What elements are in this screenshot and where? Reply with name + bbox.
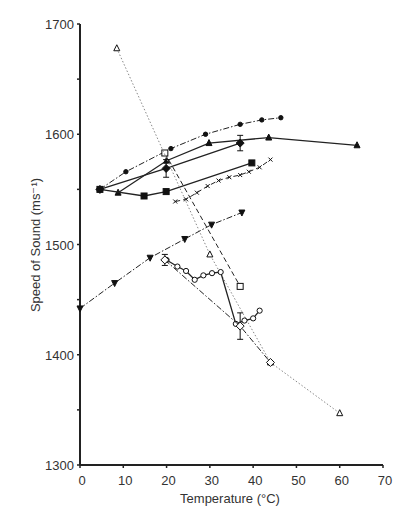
data-point (249, 160, 255, 166)
x-axis-title: Temperature (°C) (180, 491, 280, 506)
x-tick-label: 50 (291, 473, 305, 488)
data-point (237, 283, 243, 289)
y-tick-label: 1300 (45, 458, 74, 473)
data-point (337, 410, 343, 416)
data-point (141, 193, 147, 199)
data-point (207, 251, 213, 257)
data-point (97, 186, 103, 192)
data-point (218, 269, 223, 274)
axes: 01020304050607013001400150016001700 (45, 17, 392, 488)
speed-of-sound-chart: 01020304050607013001400150016001700 Temp… (0, 0, 406, 518)
data-point (192, 277, 197, 282)
series-line (100, 118, 281, 190)
series-line (165, 260, 271, 363)
data-point (201, 273, 206, 278)
series-line (175, 160, 270, 202)
y-tick-label: 1500 (45, 238, 74, 253)
data-point (203, 132, 207, 136)
data-point (238, 122, 242, 126)
data-point (162, 164, 170, 172)
x-tick-label: 40 (248, 473, 262, 488)
data-point (209, 222, 215, 228)
data-point (147, 255, 153, 261)
y-tick-label: 1600 (45, 127, 74, 142)
y-tick-label: 1400 (45, 348, 74, 363)
data-point (260, 118, 264, 122)
series-open-triangle-up (114, 45, 343, 416)
data-point (169, 146, 173, 150)
data-point (209, 271, 214, 276)
series-filled-diamond (96, 135, 244, 193)
data-point (182, 236, 188, 242)
data-point (266, 134, 272, 140)
series-filled-circle (98, 116, 283, 192)
x-tick-label: 30 (205, 473, 219, 488)
series-open-circle (164, 257, 262, 326)
y-axis-title: Speed of Sound (ms⁻¹) (28, 178, 43, 312)
series-line (118, 138, 357, 193)
data-point (77, 306, 83, 312)
data-point (257, 308, 262, 313)
data-point (114, 45, 120, 51)
data-point (175, 264, 180, 269)
data-point (251, 316, 256, 321)
x-tick-label: 0 (78, 473, 85, 488)
x-tick-label: 10 (118, 473, 132, 488)
x-tick-label: 20 (161, 473, 175, 488)
x-tick-label: 70 (378, 473, 392, 488)
series-filled-triangle-down (77, 210, 245, 312)
series-layer (77, 45, 360, 416)
data-point (183, 268, 188, 273)
series-line (117, 48, 340, 413)
data-point (124, 170, 128, 174)
x-tick-label: 60 (334, 473, 348, 488)
series-line (167, 260, 260, 324)
data-point (163, 189, 169, 195)
data-point (242, 318, 247, 323)
data-point (112, 281, 118, 287)
series-cross (173, 158, 272, 204)
data-point (279, 116, 283, 120)
y-tick-label: 1700 (45, 17, 74, 32)
